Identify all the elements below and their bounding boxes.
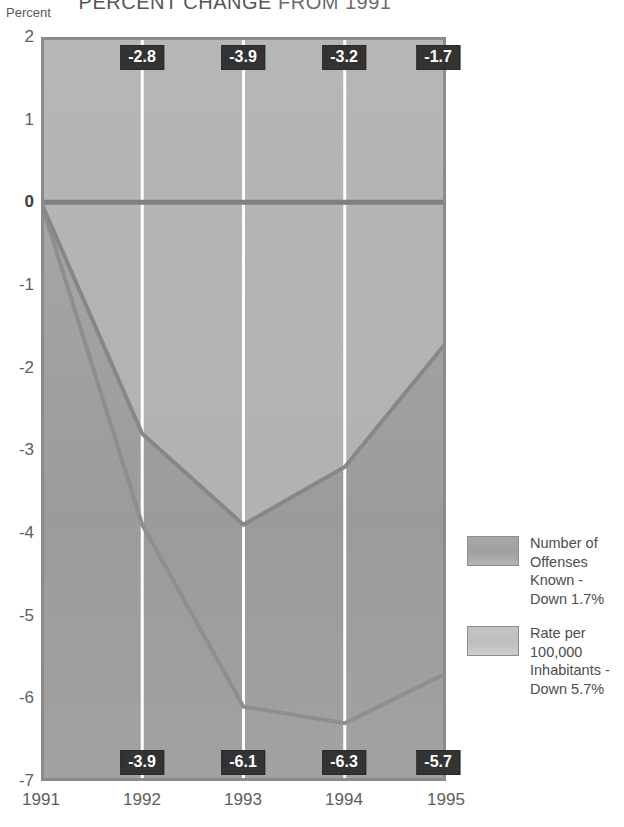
legend-rate-line3: Down 5.7%: [530, 680, 619, 699]
x-tick-1991: 1991: [0, 790, 83, 810]
y-tick-neg5: -5: [0, 606, 34, 626]
legend-offenses-line1: Number of: [530, 534, 619, 553]
plot-area: [41, 37, 446, 781]
y-tick-neg1: -1: [0, 275, 34, 295]
legend-swatch-rate: [467, 626, 519, 656]
value-label-rate-1995: -5.7: [416, 750, 460, 775]
page-title-light: FROM 1991: [278, 0, 391, 13]
value-label-offenses-1993: -3.9: [221, 45, 265, 70]
value-label-offenses-1992: -2.8: [120, 45, 164, 70]
value-label-rate-1992: -3.9: [120, 750, 164, 775]
page-title: PERCENT CHANGE FROM 1991: [0, 0, 470, 14]
value-label-offenses-1994: -3.2: [322, 45, 366, 70]
legend-rate-line2: Inhabitants -: [530, 661, 619, 680]
y-tick-0: 0: [0, 192, 34, 212]
x-tick-1995: 1995: [404, 790, 488, 810]
value-label-offenses-1995: -1.7: [416, 45, 460, 70]
x-tick-1994: 1994: [302, 790, 386, 810]
page-title-strong: PERCENT CHANGE: [79, 0, 272, 13]
legend-item-offenses: Number of Offenses Known - Down 1.7%: [467, 534, 619, 608]
chart-legend: Number of Offenses Known - Down 1.7% Rat…: [467, 534, 619, 714]
legend-item-rate: Rate per 100,000 Inhabitants - Down 5.7%: [467, 624, 619, 698]
y-tick-neg2: -2: [0, 358, 34, 378]
legend-offenses-line3: Down 1.7%: [530, 590, 619, 609]
legend-rate-line1: Rate per 100,000: [530, 624, 619, 661]
chart-page: PERCENT CHANGE FROM 1991 Percent 2 1 0 -…: [0, 0, 624, 827]
y-axis-unit-label: Percent: [6, 5, 51, 20]
legend-offenses-line2: Offenses Known -: [530, 553, 619, 590]
legend-label-offenses: Number of Offenses Known - Down 1.7%: [530, 534, 619, 608]
x-tick-1993: 1993: [201, 790, 285, 810]
value-label-rate-1993: -6.1: [221, 750, 265, 775]
y-tick-2: 2: [0, 27, 34, 47]
area-chart-svg: [41, 37, 446, 781]
x-tick-1992: 1992: [100, 790, 184, 810]
legend-label-rate: Rate per 100,000 Inhabitants - Down 5.7%: [530, 624, 619, 698]
legend-swatch-offenses: [467, 536, 519, 566]
y-tick-neg3: -3: [0, 440, 34, 460]
y-tick-neg6: -6: [0, 688, 34, 708]
y-tick-neg4: -4: [0, 523, 34, 543]
value-label-rate-1994: -6.3: [322, 750, 366, 775]
y-tick-neg7: -7: [0, 771, 34, 791]
y-tick-1: 1: [0, 110, 34, 130]
